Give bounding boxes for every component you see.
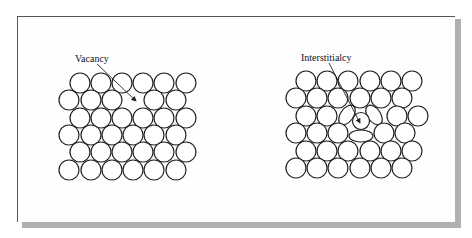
interstitialcy-lattice — [286, 71, 428, 178]
atom — [123, 160, 143, 180]
vacancy-lattice — [59, 73, 196, 180]
atom — [166, 90, 186, 110]
atom — [59, 125, 79, 145]
atom — [59, 90, 79, 110]
atom — [154, 142, 174, 162]
atom — [81, 160, 101, 180]
atom — [166, 160, 186, 180]
atom — [144, 90, 164, 110]
atom — [144, 160, 164, 180]
atom — [91, 142, 111, 162]
defect-diagram: Vacancy Interstitialcy — [0, 0, 472, 238]
atom — [176, 142, 196, 162]
atom — [70, 108, 90, 128]
atom — [102, 160, 122, 180]
vacancy-label: Vacancy — [75, 53, 109, 64]
atom — [70, 142, 90, 162]
atom — [112, 142, 132, 162]
atom — [70, 73, 90, 93]
atom — [81, 90, 101, 110]
interstitialcy-label: Interstitialcy — [301, 52, 352, 63]
atom — [133, 73, 153, 93]
atom — [59, 160, 79, 180]
atom — [102, 90, 122, 110]
atom — [133, 142, 153, 162]
